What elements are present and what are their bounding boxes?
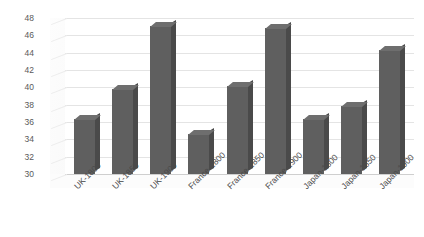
y-axis-tick-label: 46 (4, 31, 34, 40)
bar-france-1900[interactable] (265, 28, 286, 174)
bar-face (227, 86, 248, 174)
y-axis-tick-label: 44 (4, 49, 34, 58)
bar-face (379, 50, 400, 174)
bar-chart: 30323436384042444648 UK-1800UK-1850UK-19… (0, 0, 424, 237)
y-axis-tick-label: 30 (4, 170, 34, 179)
bar-face (265, 28, 286, 174)
bar-side (400, 44, 405, 171)
bar-face (150, 26, 171, 174)
y-axis-tick-label: 36 (4, 118, 34, 127)
bar-france-1850[interactable] (227, 86, 248, 174)
y-axis-tick-label: 42 (4, 66, 34, 75)
bar-side (171, 20, 176, 171)
bar-uk-1850[interactable] (112, 89, 133, 174)
bar-side (286, 22, 291, 171)
bar-uk-1900[interactable] (150, 26, 171, 174)
bar-japan-1900[interactable] (379, 50, 400, 174)
y-axis-tick-label: 32 (4, 153, 34, 162)
y-axis-tick-label: 34 (4, 135, 34, 144)
bar-side (133, 83, 138, 171)
y-axis-tick-label: 48 (4, 14, 34, 23)
y-axis-tick-label: 38 (4, 101, 34, 110)
x-axis: UK-1800UK-1850UK-1900France-1800France-1… (38, 180, 414, 237)
bar-face (112, 89, 133, 174)
y-axis: 30323436384042444648 (0, 8, 34, 184)
y-axis-tick-label: 40 (4, 83, 34, 92)
